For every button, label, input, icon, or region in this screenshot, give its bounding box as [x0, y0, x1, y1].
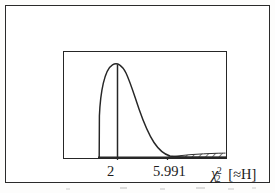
statistic-equivalence-note: [≈H]	[228, 166, 256, 182]
scan-artifact-speckle	[0, 184, 275, 193]
x-tick-label-mode: 2	[107, 162, 114, 180]
chi-subscript-df: 2	[216, 174, 221, 184]
figure-outer-frame: 2 5.991 χ22 [≈H]	[5, 5, 270, 183]
chi-square-distribution-plot	[64, 52, 228, 160]
figure-root: 2 5.991 χ22 [≈H]	[0, 0, 275, 193]
plot-area	[63, 51, 227, 159]
x-tick-label-critical-value: 5.991	[153, 162, 186, 180]
axis-label-row: 2 5.991 χ22 [≈H]	[63, 160, 275, 184]
